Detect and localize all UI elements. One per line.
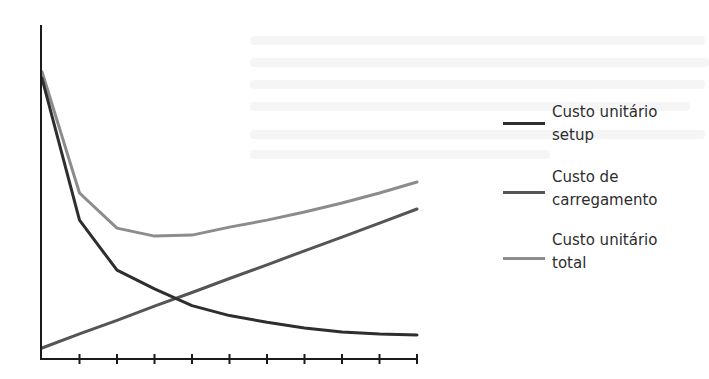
legend-item-carregamento: Custo de carregamento [503,166,709,206]
legend-label-line1: Custo unitário [552,101,709,124]
legend-label-setup: Custo unitário setup [552,101,709,147]
legend-swatch-setup [503,122,545,125]
series-line-0 [42,78,417,335]
legend-label-line2: total [552,252,709,275]
legend-item-setup: Custo unitário setup [503,101,709,141]
legend-label-total: Custo unitário total [552,229,709,275]
series-layer [42,72,417,348]
legend-label-line2: carregamento [552,189,709,212]
series-line-2 [42,72,417,236]
legend-label-line1: Custo de [552,166,709,189]
series-line-1 [42,209,417,348]
legend-label-line1: Custo unitário [552,229,709,252]
legend-swatch-carregamento [503,191,545,194]
legend-label-line2: setup [552,124,709,147]
legend-item-total: Custo unitário total [503,229,709,269]
legend-label-carregamento: Custo de carregamento [552,166,709,212]
legend-swatch-total [503,257,545,260]
